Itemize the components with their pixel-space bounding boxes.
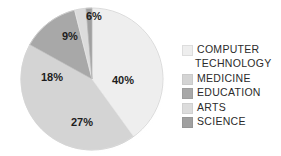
pie-chart-svg (14, 4, 172, 154)
legend-item-computer-technology[interactable]: COMPUTER (182, 42, 281, 56)
pie-label-medicine: 27% (71, 117, 93, 128)
pie-label-computer-technology: 40% (112, 75, 134, 86)
legend-swatch-spacer (182, 59, 191, 68)
chart-legend: COMPUTER TECHNOLOGY MEDICINE EDUCATION A… (182, 42, 281, 128)
legend-swatch-icon-computer-technology (182, 45, 193, 56)
pie-label-education: 18% (41, 72, 63, 83)
legend-label-medicine: MEDICINE (197, 71, 251, 85)
legend-item-education[interactable]: EDUCATION (182, 85, 281, 99)
legend-label-education: EDUCATION (197, 85, 261, 99)
legend-label-arts: ARTS (197, 100, 226, 114)
legend-swatch-icon-medicine (182, 74, 193, 85)
legend-swatch-icon-education (182, 88, 193, 99)
legend-label-computer-technology: COMPUTER (197, 42, 259, 56)
legend-item-computer-technology-line2: TECHNOLOGY (182, 56, 281, 70)
legend-item-arts[interactable]: ARTS (182, 100, 281, 114)
legend-swatch-icon-arts (182, 103, 193, 114)
pie-chart-figure: 40% 27% 18% 9% 6% COMPUTER TECHNOLOGY ME… (0, 0, 281, 156)
pie-chart-plot-area: 40% 27% 18% 9% 6% (14, 4, 172, 154)
legend-item-medicine[interactable]: MEDICINE (182, 71, 281, 85)
legend-label-computer-technology-cont: TECHNOLOGY (195, 56, 272, 70)
pie-label-science: 6% (86, 11, 102, 22)
legend-swatch-icon-science (182, 117, 193, 128)
legend-label-science: SCIENCE (197, 114, 246, 128)
pie-label-arts: 9% (62, 31, 78, 42)
legend-item-science[interactable]: SCIENCE (182, 114, 281, 128)
